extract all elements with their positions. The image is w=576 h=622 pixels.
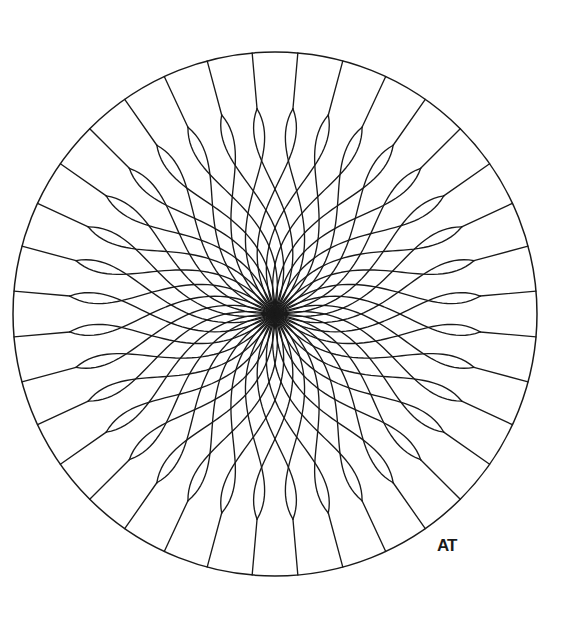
artist-signature: AT: [437, 536, 458, 555]
drawing-canvas: AT: [0, 0, 576, 622]
mandala-artwork: AT: [0, 0, 576, 622]
